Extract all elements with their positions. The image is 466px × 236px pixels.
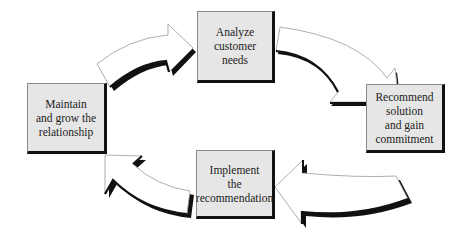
- node-label: Implement the recommendation: [196, 163, 273, 205]
- node-label: Recommend solution and gain commitment: [375, 90, 433, 146]
- node-label: Maintain and grow the relationship: [36, 97, 96, 139]
- arrow-implement-to-maintain: [105, 155, 194, 218]
- node-analyze-customer-needs: Analyze customer needs: [197, 11, 275, 83]
- arrow-recommend-to-implement: [275, 160, 412, 228]
- node-implement-recommendation: Implement the recommendation: [196, 150, 275, 219]
- arrow-maintain-to-analyze: [97, 24, 196, 91]
- node-label: Analyze customer needs: [214, 25, 256, 67]
- sales-cycle-diagram: Analyze customer needs Recommend solutio…: [0, 0, 466, 236]
- node-maintain-relationship: Maintain and grow the relationship: [27, 83, 107, 154]
- node-recommend-solution: Recommend solution and gain commitment: [366, 84, 445, 153]
